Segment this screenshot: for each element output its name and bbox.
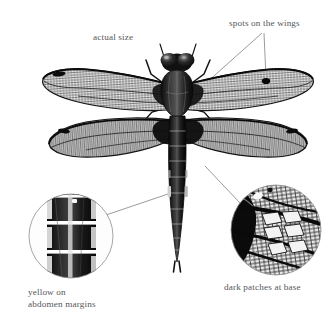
label-yellow-line1: yellow on: [28, 287, 66, 297]
leader-line-hindwing-base: [205, 166, 240, 203]
label-yellow-on-abdomen-margins: yellow onabdomen margins: [28, 287, 96, 310]
leader-line-abdomen: [106, 193, 171, 215]
left-hindwing: [49, 118, 178, 157]
abdomen: [168, 116, 188, 272]
figure-canvas: actual size spots on the wings yellow on…: [0, 0, 336, 325]
label-yellow-line2: abdomen margins: [28, 299, 96, 309]
compound-eye-right: [178, 53, 195, 67]
right-inset-circle: [231, 185, 321, 275]
right-forewing: [181, 69, 313, 111]
label-actual-size: actual size: [93, 32, 133, 44]
left-forewing: [43, 69, 175, 111]
label-spots-on-the-wings: spots on the wings: [229, 18, 300, 30]
dragonfly-illustration: [0, 0, 336, 325]
right-hindwing: [178, 118, 307, 157]
right-wing-pterostigma-spot: [262, 78, 270, 84]
label-dark-patches-at-base: dark patches at base: [224, 282, 301, 294]
compound-eye-left: [161, 53, 178, 67]
left-inset-circle: [29, 194, 113, 278]
